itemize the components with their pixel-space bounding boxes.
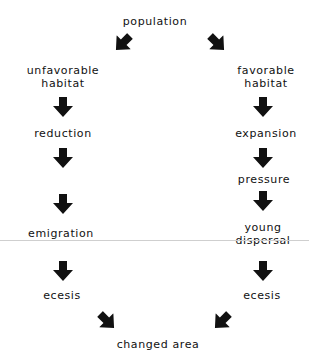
node-reduction: reduction — [34, 127, 92, 140]
node-pressure: pressure — [238, 173, 290, 186]
arrow-down-icon — [253, 261, 273, 281]
arrow-down-icon — [253, 97, 273, 117]
node-favorable-line2: habitat — [237, 77, 294, 90]
node-favorable-habitat: favorable habitat — [237, 64, 294, 90]
node-dispersal-line1: young — [236, 221, 291, 234]
node-favorable-line1: favorable — [237, 64, 294, 77]
arrow-down-icon — [53, 194, 73, 214]
arrow-down-right-icon — [93, 307, 121, 335]
arrow-down-left-icon — [109, 29, 137, 57]
node-young-dispersal: young dispersal — [236, 221, 291, 247]
arrow-down-icon — [53, 261, 73, 281]
node-ecesis-right: ecesis — [243, 289, 281, 302]
arrow-down-left-icon — [208, 307, 236, 335]
node-ecesis-left: ecesis — [43, 289, 81, 302]
node-population: population — [123, 15, 188, 28]
node-unfavorable-line2: habitat — [27, 77, 99, 90]
arrow-down-icon — [53, 148, 73, 168]
node-expansion: expansion — [235, 127, 297, 140]
node-unfavorable-habitat: unfavorable habitat — [27, 64, 99, 90]
arrow-down-icon — [53, 97, 73, 117]
node-emigration: emigration — [28, 227, 94, 240]
arrow-down-icon — [253, 148, 273, 168]
arrow-down-icon — [253, 191, 273, 211]
horizontal-rule — [0, 240, 309, 241]
node-changed-area: changed area — [117, 338, 200, 351]
arrow-down-right-icon — [203, 29, 231, 57]
node-unfavorable-line1: unfavorable — [27, 64, 99, 77]
